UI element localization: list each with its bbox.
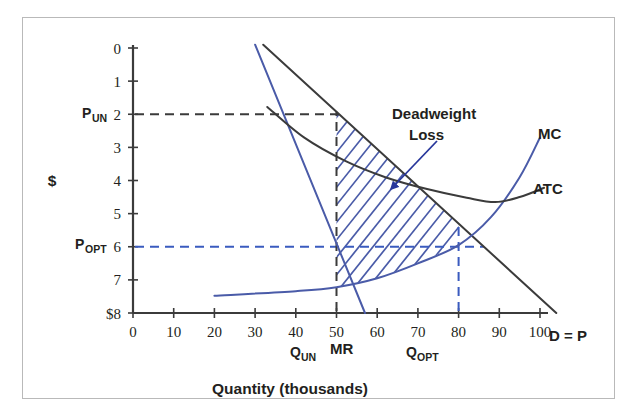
x-tick-label: 0 [129, 324, 137, 340]
x-tick-label: 100 [529, 324, 552, 340]
hatch-line [0, 0, 58, 393]
mc-curve-label: MC [538, 125, 561, 142]
series-d-p [263, 45, 556, 313]
hatch-line [0, 0, 72, 393]
y-tick-label: 0 [114, 41, 122, 57]
hatch-line [0, 0, 128, 393]
p-opt-label-main: P [75, 236, 84, 252]
hatch-line [0, 0, 240, 393]
deadweight-loss-label-line1: Deadweight [392, 105, 476, 122]
atc-curve-label: ATC [533, 180, 563, 197]
hatch-line [606, 0, 638, 393]
hatch-line [634, 0, 638, 393]
hatch-line [396, 0, 638, 393]
hatch-line [32, 0, 352, 393]
hatch-line [116, 0, 436, 393]
q-un-label-main: Q [290, 344, 301, 360]
x-tick-label: 60 [370, 324, 385, 340]
axes [133, 45, 548, 313]
q-opt-axis-label: Q OPT [406, 344, 439, 363]
deadweight-loss-arrow [393, 141, 437, 187]
x-tick-label: 70 [410, 324, 425, 340]
series-mc [214, 137, 540, 295]
deadweight-loss-label-line2: Loss [409, 126, 444, 143]
economics-chart: $876543210 0102030405060708090100 $ Quan… [0, 0, 638, 417]
x-tick-label: 30 [248, 324, 263, 340]
p-opt-axis-label: P OPT [75, 236, 107, 255]
q-opt-label-main: Q [406, 344, 417, 360]
q-un-axis-label: Q UN [290, 344, 316, 363]
p-opt-label-sub: OPT [85, 243, 107, 255]
y-tick-label: $8 [106, 306, 121, 322]
x-axis-title: Quantity (thousands) [212, 380, 368, 397]
demand-curve-label: D = P [549, 327, 587, 344]
hatch-line [0, 0, 170, 393]
y-axis-title: $ [48, 172, 57, 189]
hatch-line [0, 0, 44, 393]
x-tick-label: 80 [451, 324, 466, 340]
mr-curve-label: MR [330, 340, 353, 357]
y-tick-label: 1 [114, 74, 122, 90]
y-tick-label: 7 [114, 272, 122, 288]
hatch-line [0, 0, 184, 393]
p-un-label-main: P [82, 105, 91, 121]
hatch-line [74, 0, 394, 393]
p-un-axis-label: P UN [82, 105, 107, 124]
hatch-line [0, 0, 16, 393]
y-tick-label: 6 [114, 239, 122, 255]
hatch-line [0, 0, 282, 393]
hatch-line [0, 0, 310, 393]
q-un-label-sub: UN [301, 351, 316, 363]
y-tick-label: 4 [114, 173, 122, 189]
y-tick-label: 2 [114, 107, 122, 123]
hatch-line [0, 0, 142, 393]
x-tick-label: 10 [166, 324, 181, 340]
hatch-line [592, 0, 638, 393]
hatch-line [620, 0, 638, 393]
hatch-line [578, 0, 638, 393]
y-tick-label: 3 [114, 140, 122, 156]
x-tick-label: 40 [288, 324, 303, 340]
x-tick-label: 90 [492, 324, 507, 340]
hatch-line [4, 0, 324, 393]
x-tick-label: 20 [207, 324, 222, 340]
p-un-label-sub: UN [92, 112, 107, 124]
series-mr [255, 45, 365, 313]
hatch-line [0, 0, 86, 393]
q-opt-label-sub: OPT [417, 351, 439, 363]
hatch-line [0, 0, 226, 393]
hatch-line [0, 0, 114, 393]
y-tick-label: 5 [114, 206, 122, 222]
x-tick-label: 50 [329, 324, 344, 340]
hatch-line [0, 0, 30, 393]
hatch-line [0, 0, 100, 393]
hatch-line [0, 0, 2, 393]
